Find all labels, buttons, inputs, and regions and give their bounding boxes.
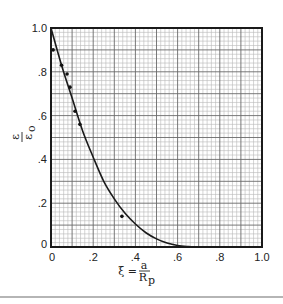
chart: 0.2.4.6.81.0 0.2.4.6.81.0 ε ε o ξ = a R …: [0, 0, 283, 304]
data-point: [78, 123, 82, 127]
x-tick-label: .2: [89, 251, 98, 263]
x-tick-labels: 0.2.4.6.81.0: [49, 251, 270, 263]
x-tick-label: .4: [131, 251, 140, 263]
x-tick-label: 0: [49, 251, 55, 263]
y-label-subscript: o: [25, 125, 38, 132]
bottom-divider: [0, 296, 283, 298]
y-axis-label: ε ε o: [9, 125, 38, 142]
data-point: [60, 63, 64, 67]
x-axis-label: ξ = a R p: [118, 259, 155, 287]
x-label-subscript: p: [148, 274, 155, 287]
x-tick-label: .8: [215, 251, 224, 263]
grid-major: [51, 28, 262, 247]
x-tick-label: 1.0: [254, 251, 269, 263]
x-tick-label: .6: [173, 251, 182, 263]
y-tick-label: .4: [38, 153, 47, 165]
data-point: [51, 48, 55, 52]
data-point: [68, 85, 72, 89]
x-label-denominator: R: [139, 271, 148, 284]
data-point: [73, 109, 77, 113]
y-label-numerator: ε: [9, 134, 22, 140]
y-label-denominator: ε: [22, 134, 35, 140]
y-tick-label: 1.0: [32, 22, 47, 34]
data-point: [120, 215, 124, 219]
data-point: [65, 72, 69, 76]
x-label-main: ξ =: [118, 265, 137, 278]
y-tick-label: .8: [38, 66, 47, 78]
y-tick-label: 0: [41, 238, 47, 250]
y-tick-label: .6: [38, 110, 47, 122]
y-tick-label: .2: [38, 197, 47, 209]
